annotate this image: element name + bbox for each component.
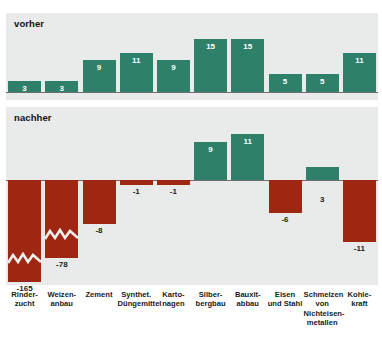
plot-area-nachher: -165-78-8-1-1911-63-11 xyxy=(6,107,378,285)
bar-nachher-3 xyxy=(120,180,153,185)
bar-value-label-nachher-9: -11 xyxy=(343,245,376,253)
category-label-1: Weizen- anbau xyxy=(43,290,80,309)
bar-value-label-vorher-8: 5 xyxy=(306,78,339,86)
bar-value-label-vorher-6: 15 xyxy=(231,43,264,51)
bar-value-label-nachher-3: -1 xyxy=(120,188,153,196)
bar-value-label-nachher-5: 9 xyxy=(194,146,227,154)
bar-value-label-nachher-4: -1 xyxy=(157,188,190,196)
bar-value-label-vorher-5: 15 xyxy=(194,43,227,51)
bar-value-label-vorher-2: 9 xyxy=(83,64,116,72)
bar-value-label-vorher-7: 5 xyxy=(269,78,302,86)
category-label-4: Karto- nagen xyxy=(155,290,192,309)
category-label-6: Bauxit- abbau xyxy=(229,290,266,309)
bar-value-label-nachher-8: 3 xyxy=(306,196,339,204)
bar-nachher-8 xyxy=(306,167,339,180)
category-label-3: Synthet. Düngemittel xyxy=(118,290,155,309)
bar-nachher-1 xyxy=(45,180,78,258)
bar-value-label-vorher-9: 11 xyxy=(343,57,376,65)
category-label-9: Kohle- kraft xyxy=(341,290,378,309)
category-label-7: Eisen und Stahl xyxy=(266,290,303,309)
category-axis: Rinder- zuchtWeizen- anbauZementSynthet.… xyxy=(6,290,378,340)
bar-value-label-nachher-7: -6 xyxy=(269,216,302,224)
category-label-8: Schmelzen von Nichteisen- metallen xyxy=(304,290,341,328)
bar-value-label-vorher-3: 11 xyxy=(120,57,153,65)
bar-value-label-nachher-2: -8 xyxy=(83,227,116,235)
bar-nachher-0 xyxy=(8,180,41,282)
chart-figure: vorher 33911915155511 nachher -165-78-8-… xyxy=(0,0,382,340)
bar-value-label-nachher-1: -78 xyxy=(45,261,78,269)
category-label-2: Zement xyxy=(80,290,117,299)
panel-nachher: nachher -165-78-8-1-1911-63-11 xyxy=(6,107,378,285)
panel-vorher: vorher 33911915155511 xyxy=(6,13,378,100)
bar-nachher-7 xyxy=(269,180,302,213)
bar-value-label-vorher-1: 3 xyxy=(45,85,78,93)
bar-value-label-vorher-4: 9 xyxy=(157,64,190,72)
category-label-0: Rinder- zucht xyxy=(6,290,43,309)
bar-value-label-vorher-0: 3 xyxy=(8,85,41,93)
category-label-5: Silber- bergbau xyxy=(192,290,229,309)
plot-area-vorher: 33911915155511 xyxy=(6,13,378,100)
bar-value-label-nachher-6: 11 xyxy=(231,138,264,146)
bar-nachher-9 xyxy=(343,180,376,242)
bar-nachher-2 xyxy=(83,180,116,224)
bar-nachher-4 xyxy=(157,180,190,185)
